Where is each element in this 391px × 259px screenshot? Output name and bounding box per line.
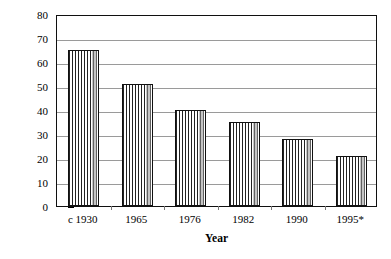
x-axis-tick-mark: [164, 206, 165, 210]
y-axis-tick-label: 60: [18, 58, 48, 68]
y-axis-tick-label: 80: [18, 10, 48, 20]
y-axis-tick-mark: [68, 207, 74, 208]
bar: [336, 156, 367, 206]
bar-shade: [360, 157, 365, 205]
y-axis-tick-labels: 01020304050607080: [18, 0, 48, 259]
y-axis-tick-label: 10: [18, 178, 48, 188]
x-axis-tick-labels: c 193019651976198219901995*: [56, 212, 377, 228]
plot-area: [56, 15, 377, 207]
bar-shade: [199, 111, 204, 205]
bar: [282, 139, 313, 206]
bar-chart: Space heat GJ/a 01020304050607080 c 1930…: [0, 0, 391, 259]
bars-layer: [57, 16, 376, 206]
y-axis-title: Space heat GJ/a: [0, 0, 16, 47]
x-axis-tick-label: 1982: [217, 212, 271, 226]
y-axis-tick-label: 20: [18, 154, 48, 164]
y-axis-tick-label: 70: [18, 34, 48, 44]
bar-shade: [306, 140, 311, 205]
x-axis-tick-label: 1990: [270, 212, 324, 226]
x-axis-tick-mark: [325, 206, 326, 210]
bar-shade: [253, 123, 258, 205]
x-axis-tick-label: 1976: [163, 212, 217, 226]
x-axis-tick-mark: [111, 206, 112, 210]
y-axis-tick-label: 40: [18, 106, 48, 116]
x-axis-tick-label: c 1930: [56, 212, 110, 226]
bar: [68, 50, 99, 206]
y-axis-tick-label: 50: [18, 82, 48, 92]
x-axis-tick-mark: [271, 206, 272, 210]
bar-shade: [92, 51, 97, 205]
x-axis-tick-mark: [218, 206, 219, 210]
x-axis-title: Year: [56, 231, 377, 245]
y-axis-tick-label: 0: [18, 202, 48, 212]
bar: [175, 110, 206, 206]
y-axis-tick-label: 30: [18, 130, 48, 140]
x-axis-tick-label: 1965: [110, 212, 164, 226]
bar: [229, 122, 260, 206]
bar: [122, 84, 153, 206]
bar-shade: [146, 85, 151, 205]
x-axis-tick-label: 1995*: [324, 212, 378, 226]
